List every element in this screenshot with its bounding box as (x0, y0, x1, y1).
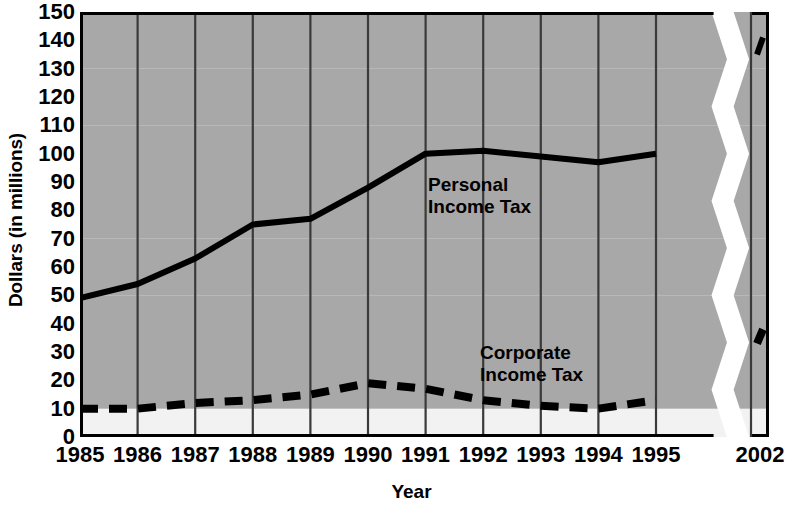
annotation-corporate-income-tax: Corporate Income Tax (480, 342, 583, 386)
x-axis-tick-label: 1986 (113, 443, 162, 467)
y-axis-tick-label: 50 (24, 284, 80, 306)
x-axis-tick-label: 2002 (736, 443, 785, 467)
x-axis-tick-label: 1992 (459, 443, 508, 467)
y-axis-tick-label: 20 (24, 369, 80, 391)
y-axis-tick-label: 110 (24, 114, 80, 136)
x-axis-tick-label: 1990 (344, 443, 393, 467)
y-axis-tick-labels: 0102030405060708090100110120130140150 (24, 0, 80, 518)
x-axis-tick-label: 1994 (574, 443, 623, 467)
x-axis-tick-label: 1993 (516, 443, 565, 467)
line-chart: Dollars (in millions) 010203040506070809… (0, 0, 795, 518)
x-axis-title: Year (0, 481, 795, 503)
y-axis-tick-label: 40 (24, 313, 80, 335)
y-axis-tick-label: 120 (24, 86, 80, 108)
y-axis-tick-label: 70 (24, 228, 80, 250)
x-axis-tick-labels: 1985198619871988198919901991199219931994… (0, 443, 795, 477)
y-axis-tick-label: 90 (24, 171, 80, 193)
y-axis-tick-label: 150 (24, 1, 80, 23)
x-axis-tick-label: 1988 (228, 443, 277, 467)
y-axis-tick-label: 100 (24, 143, 80, 165)
y-axis-tick-label: 140 (24, 29, 80, 51)
plot-svg (80, 12, 769, 437)
x-axis-tick-label: 1995 (632, 443, 681, 467)
annotation-personal-income-tax: Personal Income Tax (428, 174, 531, 218)
y-axis-tick-label: 10 (24, 398, 80, 420)
y-axis-tick-label: 60 (24, 256, 80, 278)
plot-area (80, 12, 769, 437)
x-axis-tick-label: 1987 (171, 443, 220, 467)
x-axis-title-text: Year (391, 481, 431, 503)
y-axis-tick-label: 80 (24, 199, 80, 221)
x-axis-tick-label: 1991 (401, 443, 450, 467)
x-axis-tick-label: 1985 (56, 443, 105, 467)
y-axis-tick-label: 130 (24, 58, 80, 80)
y-axis-tick-label: 30 (24, 341, 80, 363)
x-axis-tick-label: 1989 (286, 443, 335, 467)
